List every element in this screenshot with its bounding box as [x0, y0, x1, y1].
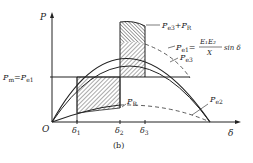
- y-axis-label: P: [39, 12, 47, 22]
- x-axis-label: δ: [228, 128, 233, 138]
- pe3-plus-pr-label: Pe3+PR: [161, 21, 192, 31]
- delta1-label: δ1: [72, 126, 81, 136]
- delta2-label: δ2: [115, 126, 124, 136]
- delta3-label: δ3: [140, 126, 149, 136]
- upper-area: [120, 22, 145, 45]
- svg-text:E₁E₂: E₁E₂: [199, 38, 216, 46]
- svg-text:X: X: [206, 49, 213, 57]
- origin-label: O: [42, 124, 50, 134]
- pe2-label: Pe2: [209, 95, 223, 105]
- pr-dashed: [120, 105, 210, 122]
- accelerating-area: [77, 77, 120, 113]
- pe3-label: Pe3: [179, 53, 193, 63]
- svg-text:Pe1=: Pe1=: [175, 43, 195, 53]
- pm-label: Pm=Pe1: [2, 73, 34, 83]
- svg-text:sin δ: sin δ: [224, 44, 241, 52]
- power-angle-diagram: P δ O Pm=Pe1 Pe3+PR Pe1= E₁E₂ X sin δ Pe…: [0, 0, 253, 163]
- figure-caption: (b): [113, 141, 124, 150]
- pr-label: PR: [126, 97, 137, 107]
